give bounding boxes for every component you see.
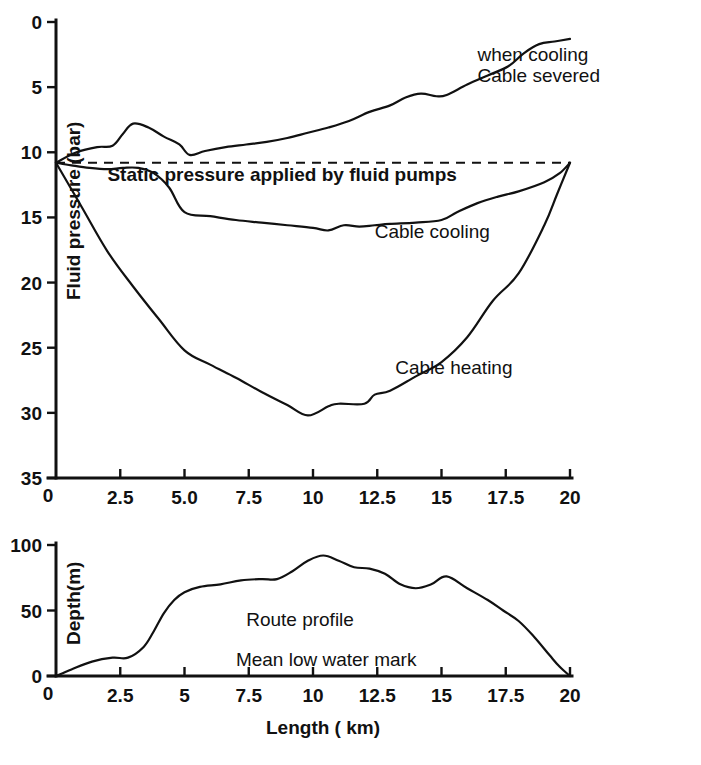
y-tick-label-5: 5 — [31, 77, 42, 98]
y-tick-label-25: 25 — [21, 338, 43, 359]
x-tick-label-20: 20 — [559, 487, 580, 508]
x-tick-label-12.5: 12.5 — [359, 487, 396, 508]
panel-route-depth-profile: 05010002.557.51012.51517.520Mean low wat… — [10, 535, 580, 738]
y-tick-label-0: 0 — [31, 666, 42, 687]
x-axis-title: Length ( km) — [266, 717, 380, 738]
annotation-mean-low-water-mark: Mean low water mark — [236, 649, 417, 670]
x-tick-label-7.5: 7.5 — [236, 487, 263, 508]
x-tick-label-2.5: 2.5 — [107, 685, 134, 706]
x-tick-label-17.5: 17.5 — [487, 685, 524, 706]
annotation-when-cooling: when cooling — [476, 44, 588, 65]
y-tick-label-10: 10 — [21, 142, 42, 163]
y-tick-label-20: 20 — [21, 273, 42, 294]
y-tick-label-50: 50 — [21, 601, 42, 622]
x-tick-label-17.5: 17.5 — [487, 487, 524, 508]
y-axis-title: Fluid pressure (bar) — [63, 122, 84, 300]
x-tick-label-15: 15 — [431, 685, 453, 706]
panel-fluid-pressure-profile: 0510152025303502.55.07.51012.51517.520Ca… — [21, 12, 600, 508]
x-tick-label-10: 10 — [302, 487, 323, 508]
x-tick-label-10: 10 — [302, 685, 323, 706]
x-tick-label-5.0: 5.0 — [171, 487, 197, 508]
y-tick-label-0: 0 — [31, 12, 42, 33]
annotation-static-pressure-applied-by-fluid-pumps: Static pressure applied by fluid pumps — [107, 164, 456, 185]
x-tick-label-0: 0 — [43, 683, 54, 704]
y-axis-title: Depth(m) — [63, 562, 84, 645]
y-tick-label-35: 35 — [21, 468, 43, 489]
x-tick-label-0: 0 — [43, 485, 54, 506]
y-tick-label-100: 100 — [10, 535, 42, 556]
y-tick-label-30: 30 — [21, 403, 42, 424]
x-tick-label-20: 20 — [559, 685, 580, 706]
annotation-cable-severed: Cable severed — [477, 65, 600, 86]
x-tick-label-5: 5 — [179, 685, 190, 706]
figure-container: 0510152025303502.55.07.51012.51517.520Ca… — [0, 0, 701, 765]
x-tick-label-15: 15 — [431, 487, 453, 508]
x-tick-label-12.5: 12.5 — [359, 685, 396, 706]
annotation-cable-heating: Cable heating — [395, 357, 512, 378]
y-tick-label-15: 15 — [21, 207, 43, 228]
annotation-route-profile: Route profile — [246, 609, 354, 630]
x-tick-label-7.5: 7.5 — [236, 685, 263, 706]
annotation-cable-cooling: Cable cooling — [375, 221, 490, 242]
x-tick-label-2.5: 2.5 — [107, 487, 134, 508]
chart-svg: 0510152025303502.55.07.51012.51517.520Ca… — [0, 0, 701, 765]
